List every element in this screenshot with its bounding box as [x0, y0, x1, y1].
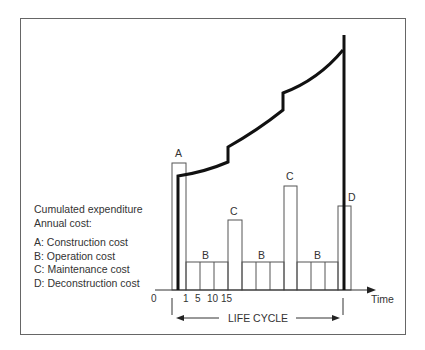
tick-10: 10 — [207, 293, 218, 304]
legend-title: Cumulated expenditure — [34, 203, 143, 217]
bar-label-c2: C — [286, 170, 294, 182]
legend-item-c: C: Maintenance cost — [34, 263, 143, 277]
life-cycle-label: LIFE CYCLE — [228, 312, 288, 324]
arrow-left-icon — [176, 315, 184, 321]
legend-item-a: A: Construction cost — [34, 236, 143, 250]
legend-item-b: B: Operation cost — [34, 250, 143, 264]
bar-b-operation-1 — [186, 262, 228, 290]
bar-label-a: A — [175, 147, 182, 159]
tick-origin: 0 — [151, 293, 157, 304]
tick-1: 1 — [183, 293, 189, 304]
legend-item-d: D: Deconstruction cost — [34, 277, 143, 291]
bar-label-b3: B — [314, 249, 321, 261]
bar-b-operation-2 — [242, 262, 284, 290]
tick-5: 5 — [195, 293, 201, 304]
annual-cost-bars — [172, 163, 351, 290]
bar-label-d: D — [348, 191, 356, 203]
bar-label-c1: C — [230, 205, 238, 217]
arrow-right-icon — [332, 315, 340, 321]
bar-label-b1: B — [202, 249, 209, 261]
tick-15: 15 — [221, 293, 232, 304]
legend-subtitle: Annual cost: — [34, 217, 143, 231]
legend: Cumulated expenditure Annual cost: A: Co… — [34, 203, 143, 290]
time-axis-label: Time — [371, 293, 394, 305]
bar-c-maintenance-1 — [228, 220, 242, 290]
bar-b-operation-3 — [297, 262, 338, 290]
bar-c-maintenance-2 — [284, 186, 297, 290]
bar-label-b2: B — [258, 249, 265, 261]
